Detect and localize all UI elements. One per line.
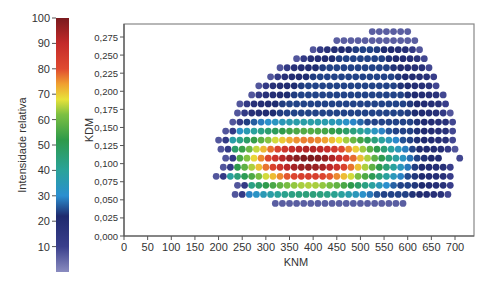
- data-point: [366, 191, 373, 198]
- data-point: [272, 128, 279, 135]
- data-point: [234, 110, 241, 117]
- data-point: [378, 137, 385, 144]
- data-point: [277, 82, 284, 89]
- data-point: [317, 46, 324, 53]
- data-point: [279, 119, 286, 126]
- data-point: [383, 82, 390, 89]
- data-point: [348, 91, 355, 98]
- data-point: [442, 101, 449, 108]
- data-point: [322, 155, 329, 162]
- data-point: [402, 191, 409, 198]
- data-point: [265, 101, 272, 108]
- data-point: [400, 128, 407, 135]
- data-point: [333, 182, 340, 189]
- data-point: [421, 128, 428, 135]
- data-point: [279, 101, 286, 108]
- data-point: [404, 173, 411, 180]
- x-tick-label: 400: [304, 241, 322, 253]
- data-point: [293, 128, 300, 135]
- data-point: [300, 119, 307, 126]
- data-point: [411, 64, 418, 71]
- data-point: [305, 182, 312, 189]
- data-point: [433, 110, 440, 117]
- data-point: [433, 91, 440, 98]
- data-point: [272, 101, 279, 108]
- data-point: [267, 73, 274, 80]
- data-point: [222, 137, 229, 144]
- data-point: [338, 46, 345, 53]
- data-point: [397, 173, 404, 180]
- x-tick-label: 200: [209, 241, 227, 253]
- data-point: [392, 137, 399, 144]
- data-point: [348, 110, 355, 117]
- data-point: [378, 155, 385, 162]
- data-point: [426, 164, 433, 171]
- data-point: [298, 164, 305, 171]
- data-point: [428, 119, 435, 126]
- data-point: [333, 173, 340, 180]
- data-point: [248, 91, 255, 98]
- data-point: [416, 146, 423, 153]
- data-point: [397, 64, 404, 71]
- data-point: [357, 200, 364, 207]
- data-point: [340, 82, 347, 89]
- data-point: [232, 146, 239, 153]
- x-tick-label: 450: [328, 241, 346, 253]
- data-point: [255, 182, 262, 189]
- data-point: [343, 155, 350, 162]
- data-point: [371, 200, 378, 207]
- data-point: [244, 137, 251, 144]
- data-point: [392, 101, 399, 108]
- data-point: [317, 146, 324, 153]
- data-point: [248, 182, 255, 189]
- data-point: [300, 101, 307, 108]
- data-point: [291, 64, 298, 71]
- data-point: [395, 73, 402, 80]
- data-point: [305, 173, 312, 180]
- data-point: [291, 173, 298, 180]
- data-point: [369, 37, 376, 44]
- data-point: [385, 119, 392, 126]
- data-point: [270, 164, 277, 171]
- data-point: [236, 137, 243, 144]
- data-point: [392, 200, 399, 207]
- data-point: [251, 119, 258, 126]
- data-point: [411, 173, 418, 180]
- data-point: [411, 164, 418, 171]
- data-point: [404, 164, 411, 171]
- data-point: [284, 182, 291, 189]
- data-point: [385, 155, 392, 162]
- data-point: [312, 182, 319, 189]
- data-point: [449, 119, 456, 126]
- data-point: [312, 91, 319, 98]
- data-point: [374, 73, 381, 80]
- data-point: [359, 73, 366, 80]
- data-point: [314, 155, 321, 162]
- data-point: [383, 173, 390, 180]
- data-point: [376, 91, 383, 98]
- data-point: [291, 182, 298, 189]
- data-point: [433, 164, 440, 171]
- data-point: [319, 110, 326, 117]
- data-point: [298, 82, 305, 89]
- data-point: [445, 146, 452, 153]
- data-point: [272, 119, 279, 126]
- data-point: [319, 173, 326, 180]
- data-point: [248, 164, 255, 171]
- colorbar-tick-label: 40: [38, 164, 50, 176]
- data-point: [317, 191, 324, 198]
- data-point: [359, 191, 366, 198]
- data-point: [390, 64, 397, 71]
- x-tick-label: 650: [422, 241, 440, 253]
- x-tick-label: 300: [257, 241, 275, 253]
- colorbar-tick-label: 100: [32, 12, 50, 24]
- data-point: [355, 91, 362, 98]
- data-point: [229, 128, 236, 135]
- data-point: [336, 55, 343, 62]
- data-point: [397, 110, 404, 117]
- data-point: [376, 64, 383, 71]
- data-point: [343, 128, 350, 135]
- data-point: [404, 28, 411, 35]
- data-point: [267, 191, 274, 198]
- data-point: [272, 200, 279, 207]
